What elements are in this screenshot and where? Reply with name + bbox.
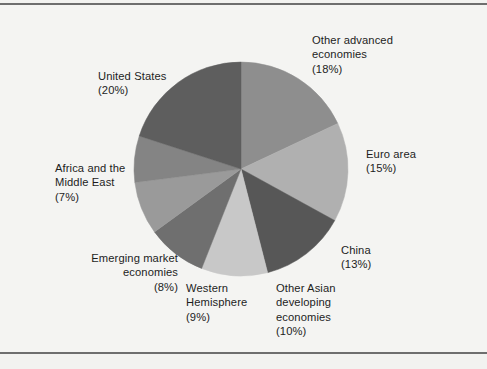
slice-label-other-asian-developing-economies: Other Asian developing economies (10%) bbox=[276, 281, 336, 339]
pie-chart-figure: Other advanced economies (18%) Euro area… bbox=[0, 0, 487, 369]
slice-label-emerging-market-economies: Emerging market economies (8%) bbox=[48, 251, 178, 294]
slice-label-euro-area: Euro area (15%) bbox=[366, 147, 416, 176]
slice-label-united-states: United States (20%) bbox=[98, 69, 206, 98]
slice-label-china: China (13%) bbox=[341, 243, 371, 272]
slice-label-western-hemisphere: Western Hemisphere (9%) bbox=[186, 281, 247, 324]
slice-label-other-advanced-economies: Other advanced economies (18%) bbox=[312, 33, 393, 76]
slice-label-africa-and-the-middle-east: Africa and the Middle East (7%) bbox=[55, 161, 175, 204]
